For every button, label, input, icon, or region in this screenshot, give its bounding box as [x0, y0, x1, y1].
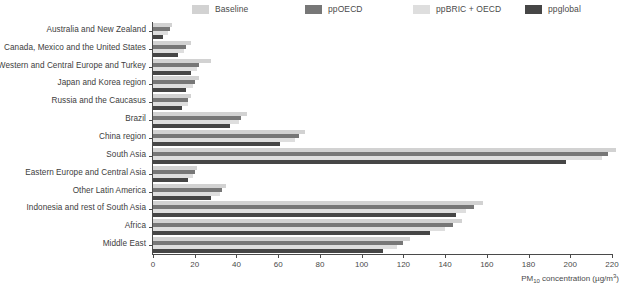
x-axis-title: PM10 concentration (µg/m3) — [521, 274, 619, 283]
bar — [153, 71, 191, 75]
x-axis-tick — [362, 254, 363, 258]
category-label: Brazil — [125, 114, 146, 123]
x-axis-line — [152, 254, 612, 255]
x-axis-tick — [320, 254, 321, 258]
category-label: South Asia — [106, 150, 146, 159]
x-axis-tick — [612, 254, 613, 258]
legend-item-ppbric-oecd: ppBRIC + OECD — [413, 4, 501, 14]
legend-item-ppoecd: ppOECD — [305, 4, 363, 14]
legend-label-ppglobal: ppglobal — [548, 4, 581, 14]
bar — [153, 142, 280, 146]
x-axis-tick-label: 0 — [151, 260, 155, 269]
x-axis-tick-label: 100 — [355, 260, 368, 269]
legend-item-baseline: Baseline — [192, 4, 248, 14]
x-axis-tick-label: 180 — [522, 260, 535, 269]
bar — [153, 53, 178, 57]
x-axis-tick-label: 40 — [232, 260, 241, 269]
bar — [153, 231, 430, 235]
bar — [153, 160, 566, 164]
bar — [153, 213, 456, 217]
category-label: China region — [99, 132, 146, 141]
x-axis-tick-label: 140 — [438, 260, 451, 269]
x-axis-tick-label: 220 — [605, 260, 618, 269]
category-label: Other Latin America — [73, 186, 146, 195]
x-axis-tick-label: 20 — [190, 260, 199, 269]
bar — [153, 88, 186, 92]
x-axis-tick — [487, 254, 488, 258]
category-label: Australia and New Zealand — [46, 25, 146, 34]
x-axis-tick — [153, 254, 154, 258]
legend-label-ppbric-oecd: ppBRIC + OECD — [436, 4, 501, 14]
legend-label-baseline: Baseline — [215, 4, 248, 14]
x-axis-tick-label: 120 — [397, 260, 410, 269]
x-axis-tick-label: 200 — [564, 260, 577, 269]
x-axis-tick-label: 160 — [480, 260, 493, 269]
bar — [153, 196, 211, 200]
legend-label-ppoecd: ppOECD — [328, 4, 363, 14]
chart-legend: Baseline ppOECD ppBRIC + OECD ppglobal — [0, 0, 619, 22]
category-label: Middle East — [103, 239, 146, 248]
bar — [153, 124, 230, 128]
legend-swatch-baseline — [192, 5, 209, 14]
bar — [153, 106, 182, 110]
legend-item-ppglobal: ppglobal — [525, 4, 581, 14]
legend-swatch-ppglobal — [525, 5, 542, 14]
x-axis-tick-label: 60 — [274, 260, 283, 269]
x-axis-tick — [570, 254, 571, 258]
x-axis-tick — [195, 254, 196, 258]
category-label: Japan and Korea region — [58, 78, 147, 87]
category-label: Russia and the Caucasus — [52, 96, 146, 105]
x-axis-tick — [445, 254, 446, 258]
category-label: Africa — [125, 221, 146, 230]
bar — [153, 35, 163, 39]
bar — [153, 178, 188, 182]
bar — [153, 249, 383, 253]
legend-swatch-ppbric-oecd — [413, 5, 430, 14]
x-axis-tick — [278, 254, 279, 258]
x-axis-tick — [403, 254, 404, 258]
x-axis-tick — [236, 254, 237, 258]
bar-chart: Australia and New ZealandCanada, Mexico … — [0, 22, 619, 297]
category-label: Canada, Mexico and the United States — [4, 43, 146, 52]
category-axis-labels: Australia and New ZealandCanada, Mexico … — [0, 22, 150, 254]
plot-area: 020406080100120140160180200220 — [153, 22, 612, 254]
category-label: Eastern Europe and Central Asia — [25, 168, 146, 177]
x-axis-tick-label: 80 — [315, 260, 324, 269]
legend-swatch-ppoecd — [305, 5, 322, 14]
x-axis-tick — [529, 254, 530, 258]
category-label: Indonesia and rest of South Asia — [27, 203, 147, 212]
category-label: Western and Central Europe and Turkey — [0, 61, 146, 70]
